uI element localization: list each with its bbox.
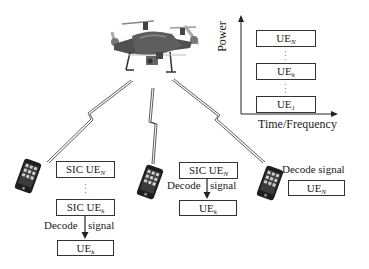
smartphone-icon [256, 165, 284, 201]
ellipsis: ··· [84, 182, 86, 194]
power-level-ue-k: UEk [256, 63, 316, 80]
label: UE [277, 98, 292, 110]
label: UE [276, 32, 291, 44]
power-axis-label: Power [216, 21, 229, 52]
wireless-link-icon [172, 79, 265, 163]
left-decode-label: Decode [44, 219, 78, 232]
left-signal-label: signal [88, 219, 114, 232]
middle-sic-ue-n: SIC UEN [179, 162, 238, 179]
left-sic-ue-k: SIC UEk [56, 199, 115, 216]
power-level-ue-n: UEN [256, 30, 316, 47]
right-result-ue-n: UEN [288, 180, 345, 196]
smartphone-icon [136, 164, 164, 200]
time-frequency-axis-label: Time/Frequency [258, 118, 337, 131]
right-decode-label: Decode signal [282, 163, 345, 176]
left-result-ue-k: UEk [57, 240, 114, 256]
middle-result-ue-k: UEk [179, 200, 237, 216]
middle-decode-label: Decode [167, 179, 201, 192]
middle-signal-label: signal [210, 179, 236, 192]
drone-icon [111, 21, 198, 72]
ellipsis: ··· [284, 49, 286, 61]
left-sic-ue-n: SIC UEN [56, 161, 115, 178]
smartphone-icon [14, 158, 42, 194]
label: UE [277, 65, 292, 77]
ellipsis: ··· [284, 82, 286, 94]
wireless-link-icon [47, 80, 133, 163]
wireless-link-icon [149, 88, 157, 164]
power-level-ue-1: UE1 [256, 96, 316, 113]
